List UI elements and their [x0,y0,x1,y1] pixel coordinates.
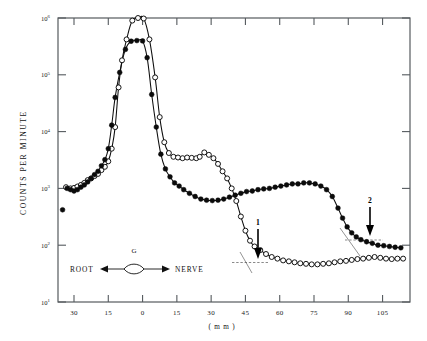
data-point-open [264,252,269,257]
data-point-filled [313,182,318,187]
data-point-filled [198,197,203,202]
ganglion-label: G [131,247,136,255]
data-point-open [344,258,349,263]
data-point-open [162,140,167,145]
x-axis-units: ( m m ) [209,323,236,331]
data-point-filled [393,245,398,250]
scientific-chart: 106105104103102101 30150153045607590105 … [0,0,427,341]
data-point-filled [296,182,301,187]
data-point-filled [149,92,154,97]
x-tick-label: 30 [207,309,215,317]
data-point-filled [273,185,278,190]
data-point-open [238,214,243,219]
data-point-open [281,258,286,263]
data-point-open [243,228,248,233]
figure-container: 106105104103102101 30150153045607590105 … [0,0,427,341]
data-point-filled [318,184,323,189]
x-tick-label: 45 [242,309,250,317]
data-point-filled [256,187,261,192]
data-point-filled [89,176,94,181]
data-point-filled [345,225,350,230]
data-point-open [315,262,320,267]
data-point-filled [358,237,363,242]
data-point-open [338,259,343,264]
x-tick-label: 0 [141,309,145,317]
x-tick-label: 105 [377,309,389,317]
data-point-filled [261,187,266,192]
arrow-1-label: 1 [256,218,260,227]
data-point-filled [99,163,104,168]
data-point-open [211,156,216,161]
data-point-filled [129,39,134,44]
data-point-open [389,257,394,262]
data-point-filled [278,184,283,189]
data-point-filled [158,152,163,157]
data-point-open [401,256,406,261]
data-point-open [361,256,366,261]
data-point-filled [284,183,289,188]
data-point-filled [221,197,226,202]
data-point-filled [106,146,111,151]
data-point-open [197,154,202,159]
data-point-open [292,260,297,265]
data-point-open [234,199,239,204]
data-point-open [349,257,354,262]
data-point-filled [267,186,272,191]
data-point-open [116,85,121,90]
x-tick-label: 15 [173,309,181,317]
data-point-filled [250,189,255,194]
data-point-filled [154,125,159,130]
data-point-filled [307,181,312,186]
data-point-filled [60,207,65,212]
x-tick-label: 90 [344,309,352,317]
x-tick-label: 60 [276,309,284,317]
data-point-open [220,169,225,174]
data-point-open [332,260,337,265]
data-point-open [395,256,400,261]
data-point-open [147,37,152,42]
data-point-filled [140,39,145,44]
nerve-label: NERVE [175,265,204,274]
data-point-filled [381,243,386,248]
data-point-filled [210,198,215,203]
data-point-filled [244,189,249,194]
data-point-filled [117,70,122,75]
data-point-open [166,151,171,156]
data-point-open [136,16,141,21]
data-point-filled [233,193,238,198]
data-point-open [355,257,360,262]
data-point-filled [172,181,177,186]
data-point-filled [168,174,173,179]
data-point-open [275,256,280,261]
data-point-open [326,261,331,266]
data-point-filled [376,243,381,248]
data-point-open [216,161,221,166]
data-point-open [124,37,129,42]
data-point-open [206,152,211,157]
data-point-filled [349,230,354,235]
data-point-filled [177,184,182,189]
data-point-open [130,18,135,23]
x-tick-label: 75 [310,309,318,317]
data-point-filled [96,169,101,174]
data-point-filled [340,216,345,221]
data-point-filled [181,187,186,192]
data-point-filled [216,198,221,203]
data-point-open [225,176,230,181]
data-point-filled [238,191,243,196]
data-point-filled [227,195,232,200]
data-point-open [304,261,309,266]
canvas-background [0,0,427,341]
data-point-filled [324,187,329,192]
x-tick-label: 15 [104,309,112,317]
data-point-open [153,75,158,80]
data-point-open [298,261,303,266]
data-point-open [321,261,326,266]
data-point-filled [301,181,306,186]
data-point-filled [123,47,128,52]
data-point-filled [330,194,335,199]
data-point-open [286,259,291,264]
data-point-open [157,115,162,120]
data-point-open [120,58,125,63]
data-point-filled [163,167,168,172]
